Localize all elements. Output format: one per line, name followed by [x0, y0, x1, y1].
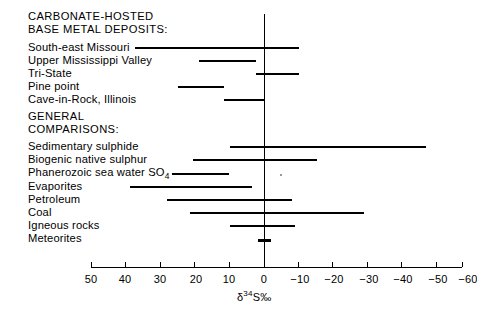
- range-bar-coal: [190, 212, 364, 214]
- row-label-phanerozoic-sea-water-so4: Phanerozoic sea water SO4: [28, 166, 170, 178]
- x-tick-minus-30: [367, 262, 368, 267]
- x-tick-label-minus-50: −50: [428, 273, 447, 285]
- x-tick-20: [194, 262, 195, 267]
- range-bar-sedimentary-sulphide: [230, 146, 426, 148]
- range-bar-upper-mississippi-valley: [199, 60, 256, 62]
- row-label-meteorites: Meteorites: [28, 232, 82, 244]
- range-bar-igneous-rocks: [230, 225, 295, 227]
- x-tick-label-30: 30: [154, 273, 167, 285]
- mass-number-34: 34: [243, 289, 252, 298]
- x-tick-label-40: 40: [119, 273, 132, 285]
- x-tick-0: [264, 262, 265, 267]
- x-axis-title: δ34S‰: [237, 291, 271, 303]
- group-heading-general-line2: COMPARISONS:: [28, 123, 119, 135]
- print-speck: [280, 174, 282, 176]
- x-tick-label-minus-40: −40: [393, 273, 412, 285]
- x-tick-40: [125, 262, 126, 267]
- x-tick-label-0: 0: [261, 273, 267, 285]
- x-tick-minus-40: [401, 262, 402, 267]
- x-tick-label-minus-30: −30: [359, 273, 378, 285]
- range-bar-biogenic-native-sulphur: [193, 159, 317, 161]
- row-label-igneous-rocks: Igneous rocks: [28, 219, 100, 231]
- x-tick-label-50: 50: [85, 273, 98, 285]
- x-tick-label-10: 10: [223, 273, 236, 285]
- row-label-upper-mississippi-valley: Upper Mississippi Valley: [28, 54, 152, 66]
- x-tick-label-20: 20: [190, 273, 203, 285]
- sulphur-permil: S‰: [253, 291, 272, 303]
- row-label-evaporites: Evaporites: [28, 180, 82, 192]
- x-tick-minus-10: [298, 262, 299, 267]
- x-tick-50: [91, 262, 92, 267]
- x-tick-30: [160, 262, 161, 267]
- x-tick-10: [229, 262, 230, 267]
- x-tick-label-minus-20: −20: [324, 273, 343, 285]
- range-bar-south-east-missouri: [135, 47, 299, 49]
- range-bar-evaporites: [130, 186, 252, 188]
- range-bar-tri-state: [256, 73, 299, 75]
- row-label-coal: Coal: [28, 206, 52, 218]
- zero-axis-line: [264, 14, 266, 267]
- row-label-sedimentary-sulphide: Sedimentary sulphide: [28, 140, 139, 152]
- row-label-pine-point: Pine point: [28, 80, 79, 92]
- sulphur-isotope-range-chart: CARBONATE-HOSTED BASE METAL DEPOSITS: So…: [0, 0, 477, 321]
- row-label-tri-state: Tri-State: [28, 67, 72, 79]
- range-bar-petroleum: [167, 199, 292, 201]
- x-tick-minus-50: [436, 262, 437, 267]
- x-tick-minus-20: [332, 262, 333, 267]
- group-heading-carbonate-line1: CARBONATE-HOSTED: [28, 10, 154, 22]
- group-heading-general-line1: GENERAL: [28, 110, 84, 122]
- row-label-biogenic-native-sulphur: Biogenic native sulphur: [28, 153, 147, 165]
- row-label-cave-in-rock-illinois: Cave-in-Rock, Illinois: [28, 93, 136, 105]
- x-axis-line: [91, 267, 462, 268]
- plot-area: CARBONATE-HOSTED BASE METAL DEPOSITS: So…: [0, 0, 477, 321]
- range-bar-phanerozoic-sea-water-so4: [172, 173, 229, 175]
- x-tick-label-minus-10: −10: [290, 273, 309, 285]
- range-bar-pine-point: [178, 86, 224, 88]
- x-tick-label-minus-60: −60: [458, 273, 477, 285]
- x-tick-minus-60: [462, 262, 463, 267]
- group-heading-carbonate-line2: BASE METAL DEPOSITS:: [28, 23, 168, 35]
- row-label-petroleum: Petroleum: [28, 193, 80, 205]
- row-label-south-east-missouri: South-east Missouri: [28, 41, 130, 53]
- range-bar-cave-in-rock-illinois: [224, 99, 265, 101]
